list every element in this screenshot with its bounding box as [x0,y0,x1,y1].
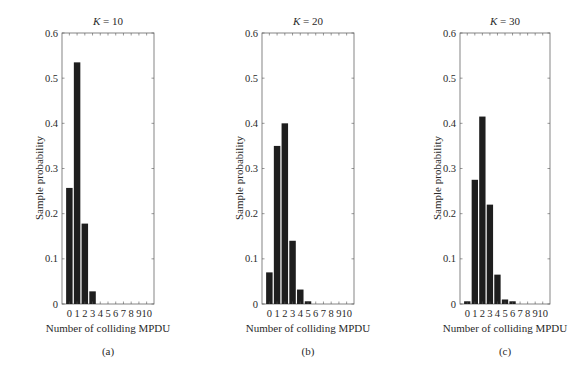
y-tick-label: 0.2 [443,208,456,219]
x-axis-label: Number of colliding MPDU [425,322,572,334]
x-tick-label: 0 [465,308,470,319]
y-tick-label: 0.6 [443,28,456,39]
x-tick-label: 5 [502,308,507,319]
x-tick-label: 7 [517,308,522,319]
panel-c: K = 30 01234567891000.10.20.30.40.50.6 S… [0,0,188,376]
x-tick-label: 8 [525,308,530,319]
bar [479,117,485,304]
x-tick-label: 1 [472,308,477,319]
x-tick-label: 2 [480,308,485,319]
bar [494,275,500,304]
y-tick-label: 0 [451,299,456,310]
bar [487,205,493,304]
x-tick-label: 3 [487,308,492,319]
x-tick-label: 6 [510,308,515,319]
y-tick-label: 0.4 [443,118,457,129]
y-tick-label: 0.3 [443,163,456,174]
subfigure-caption: (c) [475,345,535,357]
x-tick-label: 4 [495,308,501,319]
y-tick-label: 0.5 [443,73,456,84]
y-axis-label: Sample probability [431,136,443,220]
y-tick-label: 0.1 [443,253,456,264]
x-tick-label: 10 [537,308,548,319]
bar [472,180,478,304]
